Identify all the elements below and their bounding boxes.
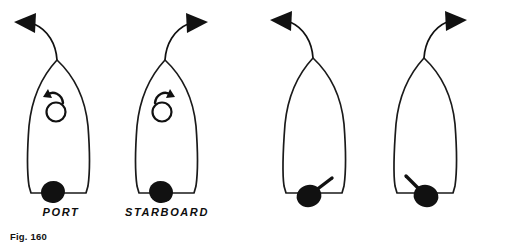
turn-arc-right <box>424 22 447 58</box>
hull-outline <box>394 58 457 193</box>
boat-label-fig160-port: PORT <box>6 206 116 218</box>
boat-fig160-starboard <box>136 13 209 206</box>
arrow-right-icon <box>445 11 467 31</box>
turn-arc-left <box>34 24 57 60</box>
turn-arc-left <box>290 22 313 58</box>
figure-caption-160: Fig. 160 <box>10 231 47 242</box>
turn-arc-right <box>165 24 188 60</box>
boat-fig161-port <box>270 11 346 210</box>
figure-161: PORT STARBOARD Fig. 161 <box>256 0 513 252</box>
arrow-left-icon <box>14 13 36 33</box>
boat-fig161-starboard <box>394 11 467 210</box>
diagram-sheet: PORT STARBOARD Fig. 160 <box>0 0 513 252</box>
boat-label-fig160-starboard: STARBOARD <box>108 206 226 218</box>
hull-outline <box>283 58 346 193</box>
arrow-left-icon <box>270 11 292 31</box>
hull-outline <box>28 60 90 193</box>
hull-outline <box>136 60 198 193</box>
figure-161-drawing <box>256 0 513 252</box>
boat-fig160-port <box>14 13 90 206</box>
arrow-right-icon <box>186 13 208 33</box>
figure-160: PORT STARBOARD Fig. 160 <box>0 0 256 252</box>
